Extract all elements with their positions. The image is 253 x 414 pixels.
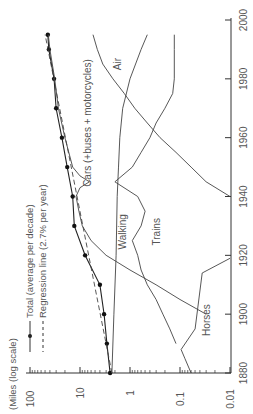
series-cars-line [48,35,206,315]
total-data-point [102,312,106,316]
legend-total-label: Total (average per decade) [24,204,35,318]
total-data-point [46,33,50,37]
annotation-air: Air [112,57,123,70]
year-tick-label: 1960 [238,126,249,149]
axis-title: (Miles (log scale) [7,338,18,410]
annotation-cars: Cars (+buses + motorcycles) [82,59,93,187]
value-tick-label: 10 [75,387,86,399]
annotation-trains: Trains [151,218,162,245]
value-tick-label: 0.01 [225,389,236,409]
series-walking-line [112,35,147,373]
annotation-horses: Horses [201,304,212,336]
total-data-point [105,341,109,345]
year-tick-label: 1900 [238,303,249,326]
value-tick-label: 0.1 [175,392,186,406]
value-tick-label: 1 [125,390,136,396]
series-trains-line [115,35,176,344]
legend-total-marker [28,334,32,338]
legend: Total (average per decade) Regression li… [7,184,48,410]
total-data-point [65,165,69,169]
axes: 1001010.10.01188019001920194019601980200… [25,8,249,408]
year-tick-label: 1940 [238,185,249,208]
year-tick-label: 1980 [238,67,249,90]
chart-svg: 1001010.10.01188019001920194019601980200… [0,0,253,414]
total-data-point [83,253,87,257]
chart: 1001010.10.01188019001920194019601980200… [0,0,253,414]
year-tick-label: 2000 [238,8,249,31]
total-data-point [60,135,64,139]
total-data-point [54,106,58,110]
year-tick-label: 1880 [238,361,249,384]
legend-regression-label: Regression line (2.7% per year) [37,184,48,318]
total-data-point [72,224,76,228]
annotation-walking: Walking [117,214,128,249]
value-tick-label: 100 [25,390,36,407]
total-data-point [98,283,102,287]
total-data-point [70,194,74,198]
year-tick-label: 1920 [238,244,249,267]
